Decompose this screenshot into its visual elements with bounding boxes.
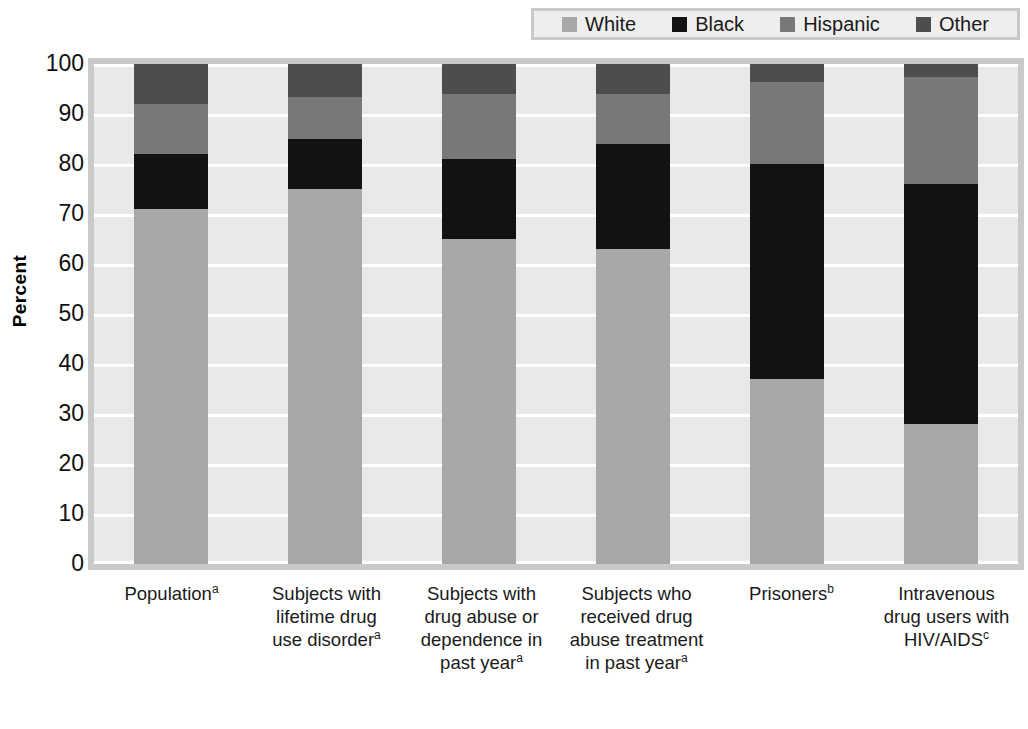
bar-segment-black bbox=[288, 139, 362, 189]
legend-swatch-icon-black bbox=[672, 17, 687, 32]
x-axis-label-footnote: c bbox=[983, 628, 989, 642]
bar-segment-other bbox=[904, 64, 978, 77]
y-axis-title: Percent bbox=[9, 241, 31, 341]
legend-swatch-icon-other bbox=[916, 17, 931, 32]
bar-segment-white bbox=[442, 239, 516, 564]
bar-segment-white bbox=[288, 189, 362, 564]
bar-segment-other bbox=[134, 64, 208, 104]
bar-segment-hispanic bbox=[904, 77, 978, 185]
bar-segment-hispanic bbox=[596, 94, 670, 144]
x-axis-label-footnote: a bbox=[374, 628, 381, 642]
bar-segment-hispanic bbox=[134, 104, 208, 154]
x-axis-label-6: Intravenous drug users with HIV/AIDSc bbox=[880, 582, 1014, 651]
bar-2 bbox=[288, 64, 362, 564]
bar-segment-black bbox=[904, 184, 978, 424]
bar-segment-black bbox=[134, 154, 208, 209]
legend-entry-black: Black bbox=[672, 14, 744, 34]
legend-label: Black bbox=[695, 14, 744, 34]
bar-segment-hispanic bbox=[442, 94, 516, 159]
x-axis-label-1: Populationa bbox=[105, 582, 239, 605]
y-tick-20: 20 bbox=[28, 452, 84, 475]
y-tick-10: 10 bbox=[28, 502, 84, 525]
bar-segment-other bbox=[288, 64, 362, 97]
x-axis-label-footnote: a bbox=[681, 651, 688, 665]
bar-segment-white bbox=[750, 379, 824, 564]
y-tick-100: 100 bbox=[28, 52, 84, 75]
x-axis-label-2: Subjects with lifetime drug use disorder… bbox=[260, 582, 394, 651]
y-tick-80: 80 bbox=[28, 152, 84, 175]
x-axis-label-text: Intravenous drug users with HIV/AIDS bbox=[884, 583, 1009, 650]
bar-segment-hispanic bbox=[288, 97, 362, 140]
y-tick-90: 90 bbox=[28, 102, 84, 125]
bar-5 bbox=[750, 64, 824, 564]
x-axis-label-text: Subjects with drug abuse or dependence i… bbox=[421, 583, 542, 673]
bar-6 bbox=[904, 64, 978, 564]
legend-swatch-icon-hispanic bbox=[780, 17, 795, 32]
x-axis-label-footnote: a bbox=[212, 582, 219, 596]
x-axis-label-3: Subjects with drug abuse or dependence i… bbox=[415, 582, 549, 674]
bar-segment-black bbox=[750, 164, 824, 379]
bar-segment-other bbox=[442, 64, 516, 94]
bar-segment-hispanic bbox=[750, 82, 824, 165]
plot-container bbox=[88, 58, 1024, 570]
bar-segment-white bbox=[134, 209, 208, 564]
x-axis-label-text: Prisoners bbox=[749, 583, 827, 604]
y-tick-50: 50 bbox=[28, 302, 84, 325]
plot-area bbox=[94, 64, 1018, 564]
legend-entry-other: Other bbox=[916, 14, 989, 34]
bar-segment-other bbox=[596, 64, 670, 94]
bar-4 bbox=[596, 64, 670, 564]
legend-entry-hispanic: Hispanic bbox=[780, 14, 880, 34]
y-tick-60: 60 bbox=[28, 252, 84, 275]
bar-3 bbox=[442, 64, 516, 564]
bar-segment-white bbox=[904, 424, 978, 564]
bar-segment-black bbox=[596, 144, 670, 249]
legend-label: Hispanic bbox=[803, 14, 880, 34]
bar-group bbox=[94, 64, 1018, 564]
y-axis: 1009080706050403020100 bbox=[28, 58, 84, 570]
y-tick-70: 70 bbox=[28, 202, 84, 225]
legend-label: White bbox=[585, 14, 636, 34]
x-axis-label-text: Subjects with lifetime drug use disorder bbox=[272, 583, 381, 650]
bar-segment-other bbox=[750, 64, 824, 82]
legend-swatch-icon-white bbox=[562, 17, 577, 32]
x-axis-label-4: Subjects who received drug abuse treatme… bbox=[570, 582, 704, 674]
x-axis-label-footnote: b bbox=[827, 582, 834, 596]
legend-label: Other bbox=[939, 14, 989, 34]
x-axis-labels: PopulationaSubjects with lifetime drug u… bbox=[94, 582, 1024, 674]
bar-segment-white bbox=[596, 249, 670, 564]
y-tick-30: 30 bbox=[28, 402, 84, 425]
x-axis-label-5: Prisonersb bbox=[725, 582, 859, 605]
x-axis-label-text: Population bbox=[124, 583, 211, 604]
x-axis-label-footnote: a bbox=[516, 651, 523, 665]
chart-legend: WhiteBlackHispanicOther bbox=[531, 8, 1020, 40]
bar-segment-black bbox=[442, 159, 516, 239]
y-tick-40: 40 bbox=[28, 352, 84, 375]
bar-1 bbox=[134, 64, 208, 564]
y-tick-0: 0 bbox=[28, 552, 84, 575]
legend-entry-white: White bbox=[562, 14, 636, 34]
